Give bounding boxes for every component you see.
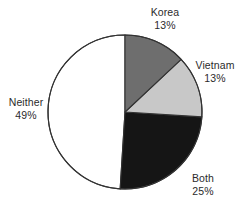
pie-label-both-value: 25% xyxy=(180,185,226,198)
pie-label-korea: Korea 13% xyxy=(139,6,191,31)
pie-label-vietnam-value: 13% xyxy=(186,72,244,85)
pie-label-both-name: Both xyxy=(180,172,226,185)
pie-label-both: Both 25% xyxy=(180,172,226,197)
pie-slice-neither xyxy=(48,35,125,189)
pie-label-neither: Neither 49% xyxy=(2,96,50,121)
pie-label-korea-name: Korea xyxy=(139,6,191,19)
pie-label-korea-value: 13% xyxy=(139,19,191,32)
pie-chart: Korea 13% Vietnam 13% Both 25% Neither 4… xyxy=(0,0,245,210)
pie-label-vietnam-name: Vietnam xyxy=(186,59,244,72)
pie-label-neither-name: Neither xyxy=(2,96,50,109)
pie-label-vietnam: Vietnam 13% xyxy=(186,59,244,84)
pie-label-neither-value: 49% xyxy=(2,109,50,122)
